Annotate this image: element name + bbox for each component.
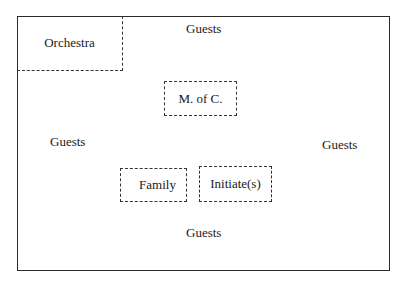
guests-top-label: Guests: [186, 21, 221, 37]
guests-left-label: Guests: [50, 134, 85, 150]
guests-right-label: Guests: [322, 137, 357, 153]
initiates-label: Initiate(s): [210, 176, 261, 192]
master-of-ceremonies-area: M. of C.: [164, 81, 237, 116]
orchestra-area: Orchestra: [17, 16, 123, 71]
orchestra-label: Orchestra: [44, 35, 95, 51]
initiates-area: Initiate(s): [199, 166, 272, 202]
mc-label: M. of C.: [178, 91, 222, 107]
guests-bottom-label: Guests: [186, 225, 221, 241]
family-label: Family: [131, 177, 176, 193]
family-area: Family: [120, 168, 187, 202]
